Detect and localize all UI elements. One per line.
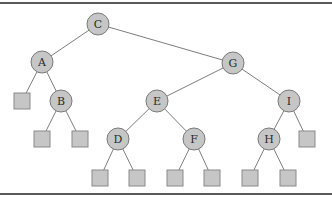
null-leaf-nA_left [14, 93, 30, 109]
node-label: C [94, 18, 102, 31]
node-label: D [114, 133, 123, 146]
tree-node-H: H [258, 128, 280, 150]
null-leaf-nD_left [92, 170, 108, 186]
tree-node-F: F [183, 128, 205, 150]
node-label: I [287, 95, 291, 108]
null-leaf-nB_right [72, 131, 88, 147]
edge-G-E [157, 63, 233, 101]
null-leaf-nF_right [204, 170, 220, 186]
node-label: H [264, 133, 274, 146]
null-leaf-nB_left [34, 131, 50, 147]
tree-node-B: B [50, 90, 72, 112]
tree-diagram: CAGBEIDFH [0, 0, 332, 199]
null-leaf-nI_right [299, 131, 315, 147]
node-label: G [229, 57, 238, 70]
null-leaf-nH_right [280, 170, 296, 186]
tree-node-D: D [107, 128, 129, 150]
null-leaf-nH_left [242, 170, 258, 186]
null-leaf-nF_left [167, 170, 183, 186]
tree-node-C: C [87, 13, 109, 35]
tree-node-I: I [278, 90, 300, 112]
tree-node-E: E [146, 90, 168, 112]
null-leaf-nD_right [129, 170, 145, 186]
tree-node-G: G [222, 52, 244, 74]
edge-C-G [98, 24, 233, 63]
tree-node-A: A [31, 51, 53, 73]
node-label: F [190, 133, 198, 146]
node-label: B [57, 95, 65, 108]
node-label: A [37, 56, 47, 69]
node-label: E [153, 95, 161, 108]
